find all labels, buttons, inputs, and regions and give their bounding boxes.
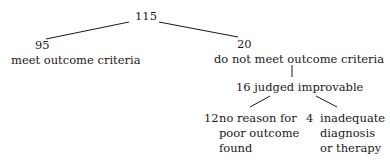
leaf-right-text: inadequate diagnosis or therapy bbox=[320, 111, 385, 156]
left-count: 95 bbox=[35, 38, 50, 53]
edge-improvable-leftleaf bbox=[250, 96, 270, 107]
leaf-left-count: 12 bbox=[204, 111, 219, 126]
root-count: 115 bbox=[135, 9, 157, 24]
edge-root-left bbox=[46, 22, 129, 39]
leaf-right-line-2: diagnosis bbox=[320, 126, 385, 141]
leaf-left-line-3: found bbox=[219, 141, 299, 156]
leaf-right-line-3: or therapy bbox=[320, 141, 385, 156]
edge-root-right bbox=[159, 22, 238, 37]
leaf-right-line-1: inadequate bbox=[320, 111, 385, 126]
improvable-label: 16 judged improvable bbox=[236, 80, 363, 95]
leaf-right-count: 4 bbox=[306, 111, 313, 126]
edge-improvable-rightleaf bbox=[316, 96, 337, 107]
leaf-left-text: no reason for poor outcome found bbox=[219, 111, 299, 156]
leaf-left-line-2: poor outcome bbox=[219, 126, 299, 141]
left-label: meet outcome criteria bbox=[11, 53, 141, 68]
leaf-left-line-1: no reason for bbox=[219, 111, 299, 126]
right-count: 20 bbox=[237, 37, 252, 52]
right-label: do not meet outcome criteria bbox=[214, 52, 384, 67]
